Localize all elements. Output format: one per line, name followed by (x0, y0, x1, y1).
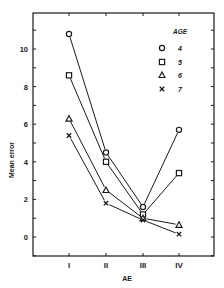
legend-label: 4 (177, 45, 182, 52)
series-age-5 (66, 73, 181, 217)
y-tick-label: 8 (24, 83, 28, 92)
circle-marker (103, 150, 108, 155)
series-segment (70, 37, 105, 149)
x-axis-label: AE (122, 275, 132, 282)
legend-item-age-5: 5 (159, 59, 182, 66)
square-marker (103, 159, 108, 164)
legend-label: 6 (178, 72, 182, 79)
x-marker (177, 232, 181, 236)
series-age-4 (66, 31, 181, 209)
legend-item-age-4: 4 (159, 45, 182, 52)
series-age-7 (67, 133, 181, 236)
circle-marker (140, 204, 145, 209)
legend-item-age-7: 7 (160, 86, 183, 93)
square-marker (159, 59, 164, 64)
square-marker (176, 170, 181, 175)
legend-item-age-6: 6 (159, 72, 182, 79)
legend: AGE4567 (159, 28, 188, 93)
series-segment (145, 176, 176, 212)
y-tick-label: 0 (24, 233, 28, 242)
series-segment (108, 155, 141, 204)
triangle-marker (159, 72, 165, 78)
y-axis-label: Mean error (8, 142, 15, 178)
square-marker (66, 73, 71, 78)
x-marker (67, 133, 71, 137)
y-tick-label: 4 (24, 158, 29, 167)
triangle-marker (66, 116, 72, 122)
circle-marker (66, 31, 71, 36)
x-marker (160, 87, 164, 91)
circle-marker (159, 45, 164, 50)
y-tick-label: 10 (20, 45, 28, 54)
x-tick-label: II (104, 261, 108, 270)
y-tick-label: 6 (24, 120, 28, 129)
line-chart: 0246810 IIIIIIIV AGE4567 Mean error AE (0, 0, 224, 288)
series-age-6 (66, 116, 182, 228)
triangle-marker (103, 187, 109, 193)
legend-title: AGE (172, 28, 188, 35)
triangle-marker (176, 222, 182, 228)
legend-label: 5 (178, 59, 182, 66)
y-tick-label: 2 (24, 195, 28, 204)
x-tick-label: IV (175, 261, 183, 270)
series-segment (109, 205, 140, 219)
series-segment (71, 139, 105, 201)
circle-marker (176, 127, 181, 132)
y-axis: 0246810 (20, 30, 214, 256)
legend-label: 7 (178, 86, 183, 93)
plot-frame (33, 13, 214, 256)
x-tick-label: III (140, 261, 147, 270)
x-tick-label: I (68, 261, 70, 270)
x-axis: IIIIIIIV (68, 13, 184, 270)
x-marker (104, 201, 108, 205)
